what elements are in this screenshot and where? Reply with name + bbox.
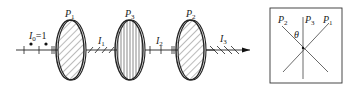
arrow-right-icon: [242, 48, 250, 53]
input-intensity-label: I0=1: [28, 30, 46, 43]
polarizer-p1-label: P1: [64, 8, 75, 21]
intensity-i2-label: I2: [155, 35, 163, 48]
beam-segment-i3: [206, 46, 250, 54]
angle-theta-label: θ: [294, 29, 299, 40]
polarizer-diagram: I0=1 P1 I1 P3 I2 P2 I3: [0, 0, 346, 94]
polarizer-p2: [176, 20, 206, 80]
polarizer-p3: [115, 20, 145, 80]
intensity-i3-label: I3: [219, 33, 227, 46]
polarizer-p2-label: P2: [185, 8, 196, 21]
unpolarized-light-symbol: [24, 42, 54, 54]
polarizer-p3-label: P3: [124, 8, 135, 21]
intensity-i1-label: I1: [97, 35, 105, 48]
polarizer-p1: [56, 20, 86, 80]
